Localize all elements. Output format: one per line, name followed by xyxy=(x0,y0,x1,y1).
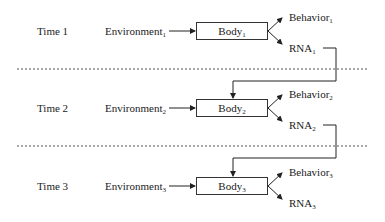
body-box-3: Body3 xyxy=(196,177,268,195)
environment-label-1: Environment1 xyxy=(105,25,166,41)
time-label-1: Time 1 xyxy=(37,25,68,37)
body-box-2: Body2 xyxy=(196,99,268,117)
environment-label-2: Environment2 xyxy=(105,102,166,118)
behavior-label-3: Behavior3 xyxy=(289,166,333,182)
body-to-behavior-arrow-3 xyxy=(268,173,282,186)
environment-label-3: Environment3 xyxy=(105,180,166,196)
rna-label-3: RNA3 xyxy=(289,197,316,213)
body-to-behavior-arrow-2 xyxy=(268,95,282,108)
behavior-label-1: Behavior1 xyxy=(289,11,333,27)
body-to-rna-arrow-3 xyxy=(268,186,282,199)
body-to-behavior-arrow-1 xyxy=(268,18,282,31)
time-label-3: Time 3 xyxy=(37,180,68,192)
body-to-rna-arrow-2 xyxy=(268,108,282,121)
rna-label-2: RNA2 xyxy=(289,119,316,135)
body-box-1: Body1 xyxy=(196,22,268,40)
behavior-label-2: Behavior2 xyxy=(289,88,333,104)
time-label-2: Time 2 xyxy=(37,102,68,114)
rna-label-1: RNA1 xyxy=(289,42,316,58)
body-to-rna-arrow-1 xyxy=(268,31,282,44)
